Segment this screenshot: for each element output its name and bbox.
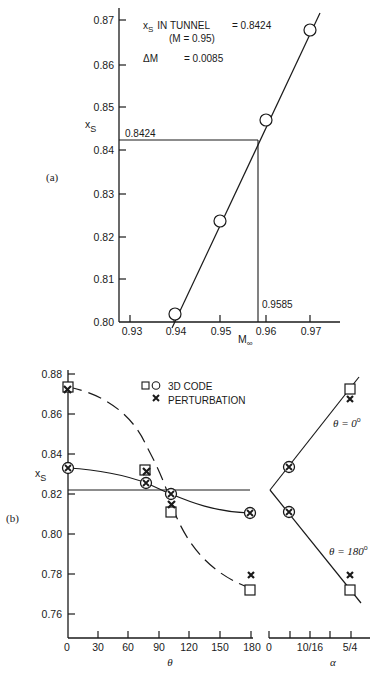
a-x-axis-label: M∞	[238, 333, 253, 348]
b-alpha-tick-labels: 0 10/16 5/4	[266, 641, 357, 653]
svg-text:0.86: 0.86	[94, 59, 115, 71]
a-vline-label: 0.9585	[262, 299, 293, 310]
a-y-axis-label: xS	[85, 118, 96, 134]
svg-text:0.82: 0.82	[42, 488, 63, 500]
svg-text:0.83: 0.83	[94, 188, 115, 200]
svg-text:0.84: 0.84	[94, 144, 115, 156]
a-point-0.97	[304, 24, 316, 36]
svg-text:0: 0	[64, 641, 70, 653]
svg-text:0.78: 0.78	[42, 568, 63, 580]
svg-text:0.84: 0.84	[42, 448, 63, 460]
b-y-axis-label: xS	[35, 467, 46, 483]
svg-text:0.96: 0.96	[256, 325, 277, 337]
svg-text:0.93: 0.93	[122, 325, 143, 337]
svg-text:5/4: 5/4	[343, 641, 358, 653]
circle-x-77	[141, 478, 152, 489]
svg-text:90: 90	[153, 641, 165, 653]
svg-text:PERTURBATION: PERTURBATION	[168, 395, 245, 406]
svg-text:xSIN TUNNEL: xSIN TUNNEL	[143, 20, 210, 34]
svg-text:= 0.8424: = 0.8424	[232, 20, 272, 31]
circle-x-103	[166, 489, 177, 500]
svg-text:120: 120	[180, 641, 198, 653]
a-point-0.96	[260, 114, 272, 126]
b-theta0-label: θ = 0o	[333, 416, 361, 429]
panel-b: (b) 0.88 0.86 0.84 0.82 0.80 0.78 0.76 x…	[6, 368, 370, 668]
b-alpha-markers	[284, 384, 356, 595]
svg-text:0.82: 0.82	[94, 231, 115, 243]
a-y-ticks	[119, 20, 126, 279]
b-y-tick-labels: 0.88 0.86 0.84 0.82 0.80 0.78 0.76	[42, 368, 63, 620]
svg-text:0.86: 0.86	[42, 408, 63, 420]
legend-circle-icon	[152, 382, 160, 390]
svg-text:ΔM: ΔM	[143, 53, 158, 64]
a-hline-label: 0.8424	[125, 128, 156, 139]
circle-x-0	[63, 463, 74, 474]
svg-text:0.87: 0.87	[94, 14, 115, 26]
a-x-ticks	[130, 315, 310, 322]
b-alpha-ticks	[269, 631, 351, 638]
b-theta180-label: θ = 180o	[329, 544, 368, 557]
svg-text:0.76: 0.76	[42, 608, 63, 620]
svg-text:0.88: 0.88	[42, 368, 63, 380]
b-dashed-curve	[68, 387, 250, 588]
a-y-tick-labels: 0.87 0.86 0.85 0.84 0.83 0.82 0.81 0.80	[94, 14, 115, 328]
legend-x-icon	[153, 395, 159, 401]
svg-text:60: 60	[122, 641, 134, 653]
svg-text:= 0.0085: = 0.0085	[184, 53, 224, 64]
panel-a: (a) 0.87 0.86 0.85 0.84 0.83 0.82 0.81 0…	[46, 8, 340, 348]
b-y-ticks	[68, 374, 75, 614]
svg-text:3D CODE: 3D CODE	[168, 381, 213, 392]
svg-text:0.81: 0.81	[94, 273, 115, 285]
a-x-tick-labels: 0.93 0.94 0.95 0.96 0.97	[122, 325, 322, 337]
svg-text:0.95: 0.95	[211, 325, 232, 337]
svg-text:0.97: 0.97	[301, 325, 322, 337]
svg-text:0.80: 0.80	[42, 528, 63, 540]
svg-text:180: 180	[243, 641, 261, 653]
circle-x-180	[245, 508, 256, 519]
b-x-markers	[64, 386, 254, 578]
svg-text:10/16: 10/16	[297, 641, 323, 653]
svg-text:0.94: 0.94	[166, 325, 187, 337]
b-legend: 3D CODE PERTURBATION	[142, 381, 245, 406]
b-alpha-axis-label: α	[330, 656, 336, 668]
figure: (a) 0.87 0.86 0.85 0.84 0.83 0.82 0.81 0…	[0, 0, 385, 677]
b-theta-ticks	[98, 631, 251, 638]
a-point-0.95	[214, 215, 226, 227]
svg-text:0.80: 0.80	[94, 316, 115, 328]
svg-text:150: 150	[211, 641, 229, 653]
panel-b-label: (b)	[6, 512, 19, 525]
a-point-0.94	[169, 308, 181, 320]
a-annotation: xSIN TUNNEL = 0.8424 (M = 0.95) ΔM = 0.0…	[143, 20, 272, 64]
b-theta-axis-label: θ	[167, 656, 173, 668]
svg-text:0.85: 0.85	[94, 101, 115, 113]
legend-square-icon	[142, 382, 149, 389]
svg-text:0: 0	[266, 641, 272, 653]
b-theta-tick-labels: 0 30 60 90 120 150 180	[64, 641, 261, 653]
svg-text:30: 30	[92, 641, 104, 653]
panel-a-label: (a)	[46, 171, 59, 184]
svg-text:(M = 0.95): (M = 0.95)	[169, 33, 215, 44]
